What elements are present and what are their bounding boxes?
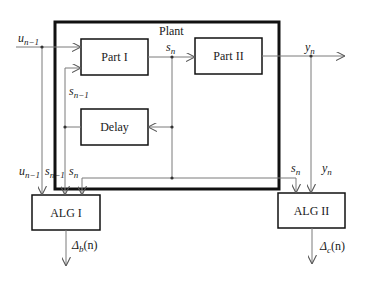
s-n-to-alg1-line bbox=[82, 178, 172, 195]
junction-u bbox=[40, 45, 43, 48]
label-s-n-alg2: sn bbox=[291, 161, 301, 177]
label-y-n-alg2: yn bbox=[321, 161, 332, 177]
junction-s-n-bus bbox=[170, 176, 173, 179]
label-y-n-top: yn bbox=[304, 40, 315, 56]
label-delta-b: Δb(n) bbox=[71, 238, 98, 254]
s-n-to-alg2-line bbox=[172, 178, 296, 193]
part1-label: Part I bbox=[101, 50, 127, 64]
label-delta-c: Δc(n) bbox=[319, 239, 345, 255]
alg2-label: ALG II bbox=[294, 204, 330, 218]
part2-label: Part II bbox=[213, 49, 243, 63]
part2-block: Part II bbox=[195, 38, 262, 74]
junction-s-n-delay bbox=[170, 125, 173, 128]
label-s-n-top: sn bbox=[166, 40, 176, 56]
block-diagram: Plant Part I Part II Delay ALG I ALG II bbox=[0, 0, 366, 281]
label-s-n-alg1: sn bbox=[69, 164, 79, 180]
part1-block: Part I bbox=[81, 39, 148, 75]
label-s-prev-feedback: sn−1 bbox=[69, 84, 89, 100]
label-u-prev-alg1: un−1 bbox=[19, 164, 40, 180]
delay-block: Delay bbox=[81, 109, 148, 145]
junction-s-prev bbox=[63, 125, 66, 128]
plant-label: Plant bbox=[159, 24, 184, 38]
alg2-block: ALG II bbox=[278, 193, 345, 228]
alg1-label: ALG I bbox=[50, 206, 82, 220]
label-u-prev-top: un−1 bbox=[18, 31, 39, 47]
alg1-block: ALG I bbox=[32, 195, 100, 230]
delay-label: Delay bbox=[100, 120, 129, 134]
